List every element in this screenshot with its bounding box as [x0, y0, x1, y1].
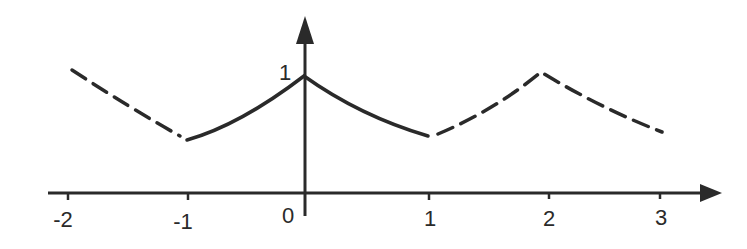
origin-label: 0	[282, 203, 294, 228]
x-axis	[48, 184, 722, 202]
dashed-curve-right	[438, 72, 662, 134]
x-tick-label: 2	[543, 206, 555, 231]
x-tick-label: -2	[53, 207, 73, 232]
y-axis-arrow-icon	[296, 16, 314, 44]
x-tick-label: 3	[655, 205, 667, 230]
y-axis	[296, 16, 314, 216]
x-tick-label: -1	[173, 209, 193, 234]
y-tick-label: 1	[279, 60, 291, 85]
periodic-function-plot: -2 -1 0 1 2 3 1	[0, 0, 747, 249]
solid-curve	[187, 76, 428, 140]
x-axis-arrow-icon	[700, 184, 722, 202]
dashed-curve-left	[72, 70, 180, 136]
x-tick-label: 1	[424, 206, 436, 231]
